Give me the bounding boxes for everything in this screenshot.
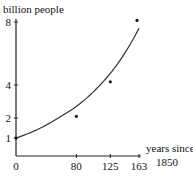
data-points [14,19,138,140]
population-chart: billion people 1248 080125163 years sinc… [0,0,193,177]
y-tick-label: 8 [6,16,12,28]
y-tick-label: 2 [6,112,12,124]
x-axis-label-line1: years since [146,142,193,154]
x-tick-label: 0 [13,160,19,172]
data-point [75,115,78,118]
data-point [14,136,17,139]
x-tick-label: 125 [102,160,119,172]
x-axis-label-line2: 1850 [156,156,179,168]
y-tick-label: 4 [6,79,12,91]
data-point [135,19,138,22]
x-ticks: 080125163 [13,154,148,172]
x-tick-label: 163 [131,160,148,172]
y-tick-label: 1 [6,132,12,144]
x-tick-label: 80 [71,160,83,172]
y-axis-label: billion people [3,3,64,15]
data-point [109,80,112,83]
exponential-fit-curve [16,28,139,138]
